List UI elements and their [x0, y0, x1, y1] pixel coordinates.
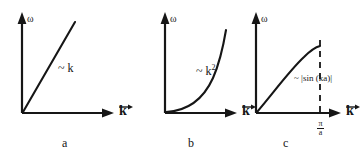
- panel-a: ω k ~ k a: [0, 0, 128, 158]
- panel-a-omega-axis: [18, 12, 27, 113]
- panel-c: ω k ~ |sin (ka)| c π a: [250, 0, 362, 158]
- a-denominator: a: [315, 129, 326, 137]
- panel-c-x-tick-pi-over-a: π a: [315, 120, 326, 138]
- panel-c-k-label: k: [346, 104, 354, 118]
- panel-b-k-label: k: [242, 104, 250, 118]
- panel-c-omega-label: ω: [261, 14, 268, 24]
- panel-a-k-label: k: [119, 104, 127, 118]
- dispersion-relation-figure: ω k ~ k a: [0, 0, 362, 158]
- panel-c-k-axis: [256, 109, 341, 118]
- panel-b-graphics: [128, 0, 250, 158]
- panel-b-curve-label-exponent: 2: [212, 63, 216, 72]
- panel-a-caption: a: [62, 137, 67, 149]
- panel-a-omega-label: ω: [27, 14, 34, 24]
- panel-b-curve-label-base: ~ k: [196, 64, 212, 78]
- panel-b-caption: b: [188, 137, 194, 149]
- panel-a-graphics: [0, 0, 128, 158]
- panel-a-curve-label: ~ k: [58, 62, 74, 74]
- panel-b-omega-label: ω: [170, 14, 177, 24]
- vector-arrow-icon: [346, 104, 360, 110]
- panel-b-curve-label: ~ k2: [196, 64, 216, 77]
- panel-c-caption: c: [283, 137, 288, 149]
- panel-b-omega-axis: [161, 12, 170, 113]
- panel-b: ω k ~ k2 b: [128, 0, 250, 158]
- panel-c-curve-label: ~ |sin (ka)|: [294, 74, 332, 83]
- pi-numerator: π: [315, 120, 326, 128]
- panel-c-omega-axis: [252, 12, 261, 113]
- panel-a-k-axis: [22, 109, 114, 118]
